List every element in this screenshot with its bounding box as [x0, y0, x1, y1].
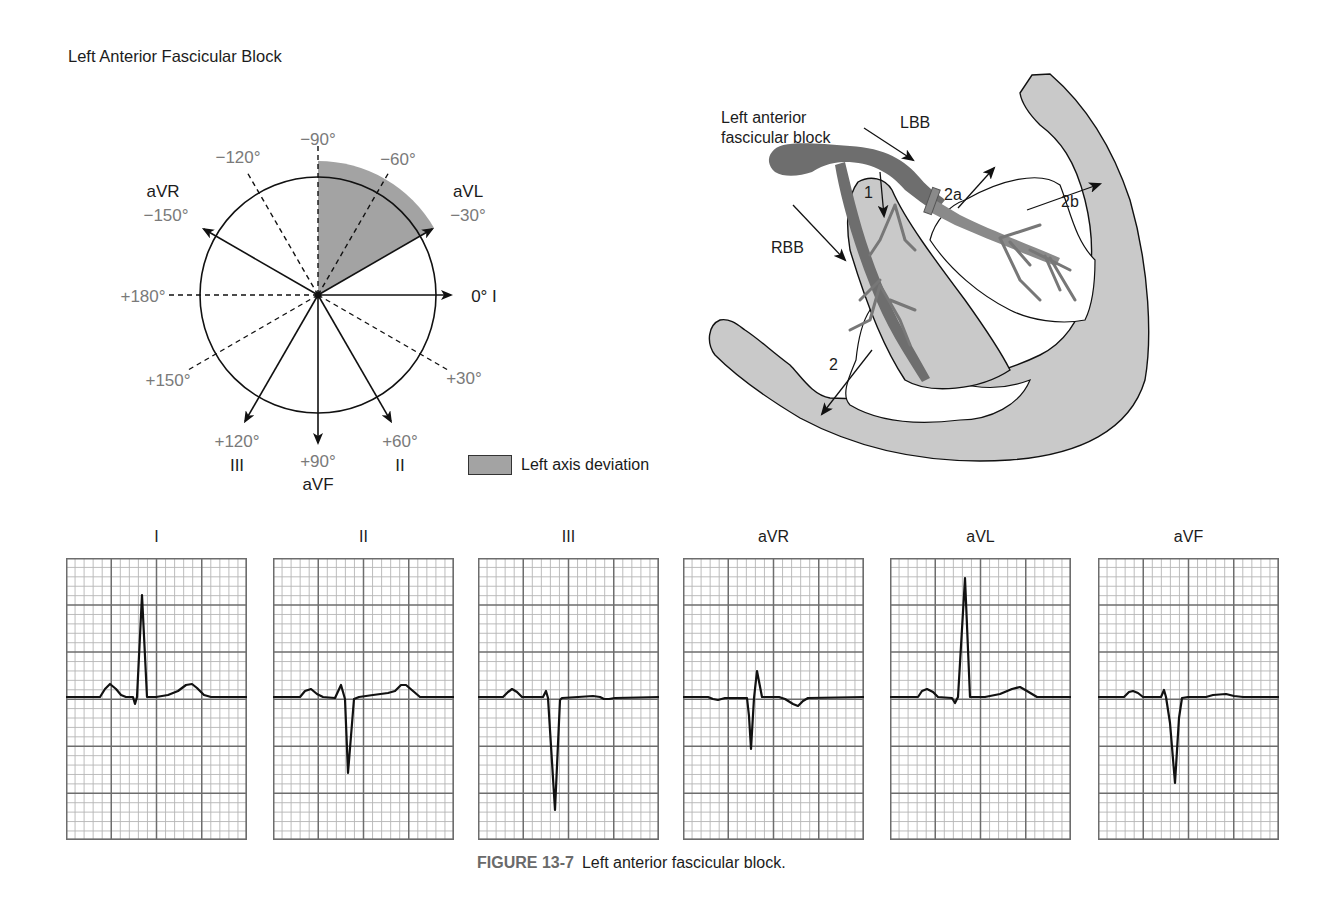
legend: Left axis deviation	[468, 455, 649, 475]
hexaxial-diagram: −90°−120°−60°−150°−30°+180°+150°+30°+120…	[0, 0, 640, 510]
label-rbb: RBB	[771, 239, 804, 256]
ecg-strip-avf	[1098, 558, 1279, 840]
ecg-strip-avr	[683, 558, 864, 840]
figure-caption-text: Left anterior fascicular block.	[582, 854, 786, 871]
ecg-lead-title: aVF	[1098, 528, 1279, 546]
legend-label: Left axis deviation	[521, 456, 649, 474]
angle-label: +180°	[120, 287, 165, 306]
label-lafb-line2: fascicular block	[721, 129, 831, 146]
label-lbb: LBB	[900, 114, 930, 131]
angle-reference-lines	[168, 145, 448, 370]
ecg-lead-title: III	[478, 528, 659, 546]
figure-number: FIGURE 13-7	[477, 854, 574, 871]
ecg-strip-i	[66, 558, 247, 840]
lead-label: aVL	[453, 182, 483, 201]
lead-label: aVR	[146, 182, 179, 201]
label-2a: 2a	[944, 186, 962, 203]
lead-label: III	[230, 456, 244, 475]
left-axis-deviation-sector	[318, 161, 434, 295]
angle-label: −120°	[215, 148, 260, 167]
lead-label: 0° I	[471, 287, 497, 306]
ecg-lead-title: I	[66, 528, 247, 546]
angle-label: −60°	[380, 150, 416, 169]
figure-caption: FIGURE 13-7Left anterior fascicular bloc…	[477, 854, 786, 872]
ecg-strip-ii	[273, 558, 454, 840]
label-1: 1	[864, 184, 873, 201]
heart-conduction-diagram: Left anterior fascicular block LBB RBB 1…	[690, 60, 1330, 480]
ecg-strip-iii	[478, 558, 659, 840]
angle-label: −150°	[143, 206, 188, 225]
angle-label: +60°	[382, 432, 418, 451]
label-lafb-line1: Left anterior	[721, 109, 807, 126]
lead-label: aVF	[302, 475, 333, 494]
angle-label: +30°	[446, 369, 482, 388]
ecg-strip-avl	[890, 558, 1071, 840]
angle-label: −30°	[450, 206, 486, 225]
angle-label: +90°	[300, 452, 336, 471]
center-point	[315, 292, 322, 299]
angle-label: +120°	[214, 432, 259, 451]
angle-label: −90°	[300, 130, 336, 149]
lead-label: II	[395, 456, 404, 475]
label-2: 2	[829, 356, 838, 373]
legend-swatch-left-axis-deviation	[468, 455, 512, 475]
angle-label: +150°	[145, 371, 190, 390]
label-2b: 2b	[1061, 193, 1079, 210]
ecg-lead-title: aVR	[683, 528, 864, 546]
ecg-lead-title: II	[273, 528, 454, 546]
ecg-lead-title: aVL	[890, 528, 1071, 546]
